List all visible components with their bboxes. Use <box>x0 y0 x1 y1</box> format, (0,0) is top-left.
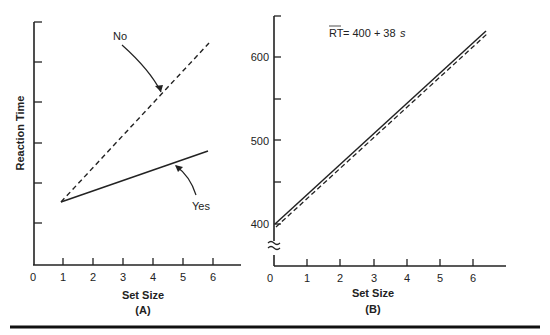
x-tick-label: 5 <box>437 272 443 284</box>
panel-a-x-tick-labels: 0 1 2 3 4 5 6 <box>30 271 216 283</box>
x-tick-label: 4 <box>404 272 410 284</box>
y-tick-label: 500 <box>251 135 269 147</box>
no-arrowhead-icon <box>155 85 163 92</box>
panel-b-x-tick-labels: 0 1 2 3 4 5 6 <box>267 272 476 284</box>
panel-b-y-ticks <box>274 16 281 224</box>
panel-b-y-tick-labels: 400 500 600 <box>251 51 269 230</box>
no-series-line <box>276 34 487 227</box>
equation-var: s <box>400 27 406 39</box>
x-tick-label: 3 <box>371 272 377 284</box>
yes-series-line <box>61 151 208 202</box>
x-tick-label: 0 <box>30 271 36 283</box>
x-tick-label: 4 <box>150 271 156 283</box>
x-tick-label: 3 <box>120 271 126 283</box>
panel-a-label: (A) <box>135 304 151 316</box>
equation-lhs: RT <box>329 27 344 39</box>
figure: 0 1 2 3 4 5 6 Set Size (A) Reaction Time… <box>0 0 550 335</box>
panel-a: 0 1 2 3 4 5 6 Set Size (A) Reaction Time… <box>14 22 241 316</box>
no-arrow-icon <box>122 45 161 92</box>
x-tick-label: 1 <box>304 272 310 284</box>
panel-a-y-axis-label: Reaction Time <box>14 96 26 171</box>
x-tick-label: 6 <box>210 271 216 283</box>
no-annotation: No <box>113 30 127 42</box>
no-series-line <box>61 43 209 202</box>
panel-b-x-axis-label: Set Size <box>352 287 394 299</box>
yes-series-line <box>275 31 486 224</box>
x-tick-label: 0 <box>267 272 273 284</box>
equation-rhs: = 400 + 38 <box>343 27 396 39</box>
panel-b: 400 500 600 0 1 2 3 4 5 6 Set Size (B) R… <box>251 16 506 315</box>
y-tick-label: 600 <box>251 51 269 63</box>
axis-break-icon <box>268 242 280 250</box>
x-tick-label: 2 <box>337 272 343 284</box>
x-tick-label: 1 <box>60 271 66 283</box>
y-tick-label: 400 <box>251 218 269 230</box>
panel-a-y-ticks <box>34 22 42 223</box>
x-tick-label: 6 <box>470 272 476 284</box>
panel-b-x-ticks <box>307 259 473 266</box>
panel-b-label: (B) <box>365 303 381 315</box>
yes-annotation: Yes <box>192 200 210 212</box>
x-tick-label: 2 <box>90 271 96 283</box>
panel-a-x-ticks <box>63 258 213 265</box>
equation: RT = 400 + 38 s <box>329 26 406 39</box>
x-tick-label: 5 <box>180 271 186 283</box>
panel-a-x-axis-label: Set Size <box>122 289 164 301</box>
